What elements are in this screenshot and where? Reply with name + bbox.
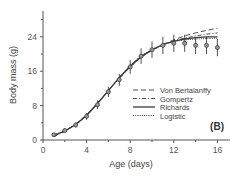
data-point — [128, 65, 132, 69]
data-point — [63, 129, 67, 133]
x-tick-label: 8 — [128, 145, 133, 155]
y-tick-label: 8 — [32, 101, 37, 111]
data-point — [106, 90, 110, 94]
data-point — [74, 123, 78, 127]
x-tick-label: 12 — [169, 145, 179, 155]
data-point — [215, 46, 219, 50]
curve-von-bertalanffy — [54, 28, 218, 136]
data-point — [52, 133, 56, 137]
y-tick-label: 24 — [28, 32, 38, 42]
data-point — [150, 48, 154, 52]
data-point — [172, 41, 176, 45]
data-point — [117, 78, 121, 82]
y-tick-label: 0 — [32, 135, 37, 145]
model-curves — [54, 28, 218, 136]
x-tick-label: 0 — [41, 145, 46, 155]
legend: Von BertalanffyGompertzRichardsLogistic — [133, 86, 211, 121]
panel-label: (B) — [210, 121, 224, 132]
curve-gompertz — [54, 33, 218, 137]
y-axis-label: Body mass (g) — [8, 46, 18, 104]
legend-label: Logistic — [160, 112, 186, 121]
data-point — [194, 43, 198, 47]
growth-curve-chart: 0481216081624 Von BertalanffyGompertzRic… — [0, 0, 238, 176]
x-axis-label: Age (days) — [109, 159, 153, 169]
data-point — [183, 41, 187, 45]
data-point — [85, 114, 89, 118]
x-tick-label: 16 — [213, 145, 223, 155]
data-point — [139, 54, 143, 58]
data-point — [205, 43, 209, 47]
data-point — [161, 43, 165, 47]
data-point — [96, 103, 100, 107]
y-tick-label: 16 — [28, 66, 38, 76]
x-tick-label: 4 — [84, 145, 89, 155]
